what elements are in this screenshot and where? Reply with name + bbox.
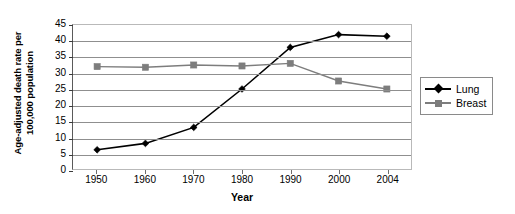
gridline <box>73 106 411 107</box>
legend-label-lung: Lung <box>451 83 479 95</box>
line-chart-figure: Age-adjusted death rate per 100,000 popu… <box>0 0 515 214</box>
data-point-breast <box>94 64 100 70</box>
data-point-breast <box>239 63 245 69</box>
y-tick-label: 15 <box>36 116 66 126</box>
x-tick-mark <box>242 170 243 174</box>
x-tick-label: 1960 <box>122 174 168 186</box>
data-point-breast <box>191 62 197 68</box>
y-tick-label: 35 <box>36 51 66 61</box>
x-tick-mark <box>193 170 194 174</box>
x-tick-label: 1950 <box>73 174 119 186</box>
data-point-lung <box>94 146 101 153</box>
y-axis-tick-labels: 051015202530354045 <box>36 18 66 174</box>
y-tick-label: 0 <box>36 165 66 175</box>
y-tick-label: 20 <box>36 100 66 110</box>
gridline <box>73 57 411 58</box>
x-tick-label: 1990 <box>268 174 314 186</box>
x-axis-tick-labels: 1950196019701980199020002004 <box>72 174 412 188</box>
gridline <box>73 74 411 75</box>
lung-marker-icon <box>425 83 451 95</box>
y-tick-label: 45 <box>36 19 66 29</box>
y-tick-mark <box>69 25 73 26</box>
gridline <box>73 139 411 140</box>
y-tick-label: 40 <box>36 35 66 45</box>
breast-marker-icon <box>425 97 451 109</box>
data-point-lung <box>383 33 390 40</box>
data-point-breast <box>142 64 148 70</box>
x-axis-title: Year <box>72 191 412 203</box>
y-tick-label: 30 <box>36 68 66 78</box>
plot-area <box>72 24 412 170</box>
y-tick-label: 10 <box>36 133 66 143</box>
x-tick-mark <box>388 170 389 174</box>
chart-legend: Lung Breast <box>420 77 493 115</box>
gridline <box>73 122 411 123</box>
x-tick-label: 2000 <box>316 174 362 186</box>
x-tick-mark <box>291 170 292 174</box>
data-point-lung <box>335 31 342 38</box>
legend-item-lung: Lung <box>425 82 486 96</box>
legend-item-breast: Breast <box>425 96 486 110</box>
y-tick-label: 25 <box>36 84 66 94</box>
y-axis-title-line2: 100,000 population <box>24 13 36 173</box>
data-point-breast <box>335 78 341 84</box>
data-point-breast <box>287 60 293 66</box>
x-tick-mark <box>145 170 146 174</box>
x-tick-mark <box>339 170 340 174</box>
gridline <box>73 41 411 42</box>
gridline <box>73 155 411 156</box>
plot-svg <box>73 25 411 169</box>
x-tick-label: 1970 <box>170 174 216 186</box>
data-point-lung <box>142 140 149 147</box>
gridline <box>73 90 411 91</box>
x-tick-mark <box>96 170 97 174</box>
x-tick-label: 2004 <box>365 174 411 186</box>
y-tick-mark <box>69 171 73 172</box>
legend-label-breast: Breast <box>451 97 486 109</box>
y-axis-title-line1: Age-adjusted death rate per <box>12 13 24 173</box>
y-tick-label: 5 <box>36 149 66 159</box>
x-tick-label: 1980 <box>219 174 265 186</box>
